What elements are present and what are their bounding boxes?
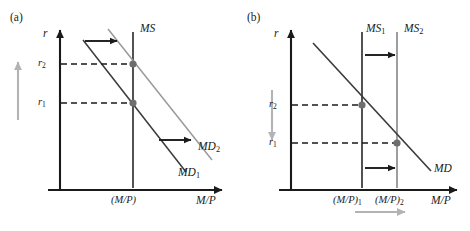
- panel-a-md2-label-base: MD: [198, 140, 216, 152]
- panel-b-y-axis-label: r: [274, 28, 278, 40]
- panel-a-r1-tick-sub: 1: [42, 100, 46, 109]
- panel-b-equilibrium-dot-1: [393, 139, 400, 146]
- panel-b-md-label: MD: [434, 163, 452, 175]
- panel-b-mp1-tick-sub: 1: [358, 198, 362, 207]
- panel-a-equilibrium-dot-2: [129, 60, 136, 67]
- panel-b-r1-tick-sub: 1: [273, 140, 277, 149]
- panel-a-r2-tick: r2: [38, 58, 46, 69]
- panel-a-md1-label-sub: 1: [196, 171, 200, 180]
- panel-b-ms1-label-sub: 1: [381, 27, 385, 36]
- panel-b-mp1-tick-base: (M/P): [333, 194, 358, 205]
- panel-b-md-curve: [313, 43, 431, 171]
- panel-b: (b) r M/P r2 r1 (M/P)1 (M/P)2 MS1 MS2 MD: [235, 0, 470, 231]
- panel-a-equilibrium-dot-1: [129, 99, 136, 106]
- panel-b-r2-tick-sub: 2: [273, 102, 277, 111]
- panel-b-mp2-tick-sub: 2: [400, 198, 404, 207]
- panel-a-r2-tick-sub: 2: [42, 61, 46, 70]
- panel-a-md1-label-base: MD: [178, 166, 196, 178]
- panel-b-ms2-label-sub: 2: [419, 27, 423, 36]
- panel-b-equilibrium-dot-2: [358, 101, 365, 108]
- panel-b-mp1-tick: (M/P)1: [333, 195, 362, 206]
- panel-a-md1-label: MD1: [178, 167, 200, 179]
- panel-b-r2-tick: r2: [269, 99, 277, 110]
- panel-a-ms-label: MS: [140, 23, 155, 35]
- panel-a-y-axis-label: r: [43, 28, 47, 40]
- panel-b-x-axis-label: M/P: [431, 195, 451, 207]
- panel-a-mp-tick: (M/P): [111, 195, 136, 206]
- panel-b-ms1-label-base: MS: [366, 22, 381, 34]
- panel-a-md2-label-sub: 2: [216, 145, 220, 154]
- panel-a-md2-label: MD2: [198, 141, 220, 153]
- panel-b-ms2-label: MS2: [404, 23, 423, 35]
- panel-b-label: (b): [247, 12, 260, 24]
- panel-a-r1-tick: r1: [38, 97, 46, 108]
- panel-a-label: (a): [10, 12, 23, 24]
- panel-b-ms2-label-base: MS: [404, 22, 419, 34]
- panel-b-mp2-tick-base: (M/P): [375, 194, 400, 205]
- panel-b-r1-tick: r1: [269, 137, 277, 148]
- money-market-figure: (a) r M/P r2 r1 (M/P) MS MD1 MD2: [0, 0, 470, 231]
- panel-b-mp2-tick: (M/P)2: [375, 195, 404, 206]
- panel-a-x-axis-label: M/P: [196, 195, 216, 207]
- panel-a: (a) r M/P r2 r1 (M/P) MS MD1 MD2: [0, 0, 235, 231]
- panel-b-ms1-label: MS1: [366, 23, 385, 35]
